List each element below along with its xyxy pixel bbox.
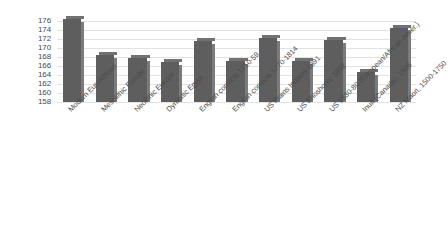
bar-side-3d [81, 22, 84, 102]
bar-side-3d [147, 61, 150, 102]
bar-side-3d [212, 44, 215, 102]
bar-side-3d [408, 31, 411, 102]
bar-top-3d [197, 38, 215, 41]
y-axis-tick-label: 160 [38, 89, 51, 97]
y-axis-tick-label: 164 [38, 71, 51, 79]
bar-top-3d [131, 55, 149, 58]
y-axis-tick-label: 162 [38, 80, 51, 88]
y-axis-tick-label: 168 [38, 53, 51, 61]
bar-top-3d [66, 16, 84, 19]
bar[interactable] [161, 62, 179, 102]
bar-face [128, 58, 146, 102]
bar-top-3d [99, 52, 117, 55]
y-axis-tick-label: 174 [38, 26, 51, 34]
y-axis: 176174172170168166164162160158 [0, 17, 55, 102]
bar-face [357, 72, 375, 102]
bar-top-3d [164, 59, 182, 62]
bar-side-3d [245, 64, 248, 102]
bar[interactable] [63, 19, 81, 102]
gridline [57, 102, 416, 103]
bar-top-3d [295, 58, 313, 61]
bar-side-3d [179, 65, 182, 102]
bar[interactable] [259, 38, 277, 102]
bar-side-3d [375, 75, 378, 102]
y-axis-tick-label: 158 [38, 98, 51, 106]
bar-face [194, 41, 212, 102]
bar-side-3d [310, 64, 313, 102]
bar-series [57, 17, 416, 102]
bar[interactable] [357, 72, 375, 102]
bar-face [161, 62, 179, 102]
bar[interactable] [194, 41, 212, 102]
bar-top-3d [229, 58, 247, 61]
bar-face [226, 61, 244, 102]
bar-face [292, 61, 310, 102]
bar-top-3d [327, 37, 345, 40]
bar[interactable] [96, 55, 114, 102]
bar-top-3d [262, 35, 280, 38]
bar-top-3d [393, 25, 411, 28]
bar-side-3d [343, 43, 346, 102]
y-axis-tick-label: 166 [38, 62, 51, 70]
plot-area [57, 17, 416, 102]
bar-side-3d [277, 41, 280, 102]
bar[interactable] [292, 61, 310, 102]
bar-face [390, 28, 408, 102]
y-axis-tick-label: 172 [38, 35, 51, 43]
bar-face [96, 55, 114, 102]
y-axis-tick-label: 176 [38, 17, 51, 25]
bar[interactable] [390, 28, 408, 102]
bar-top-3d [360, 69, 378, 72]
bar[interactable] [226, 61, 244, 102]
bar[interactable] [128, 58, 146, 102]
bar[interactable] [324, 40, 342, 102]
bar-face [324, 40, 342, 102]
y-axis-tick-label: 170 [38, 44, 51, 52]
bar-face [259, 38, 277, 102]
bar-side-3d [114, 58, 117, 102]
bar-face [63, 19, 81, 102]
